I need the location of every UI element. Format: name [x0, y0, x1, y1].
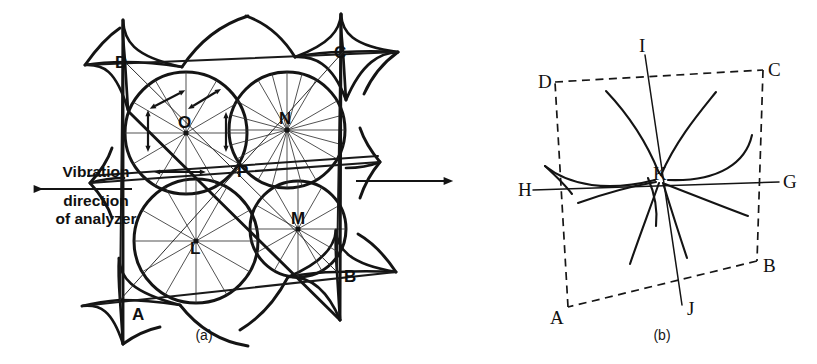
label-D-a: D [115, 53, 127, 72]
label-M: M [291, 209, 305, 228]
label-C-b: C [768, 59, 781, 80]
interference-figure-svg: O N L M P D C A B (a) Vibration directio… [0, 0, 817, 364]
label-H-b: H [518, 179, 532, 200]
caption-b: (b) [653, 327, 670, 343]
label-B-a: B [344, 267, 356, 286]
label-J-b: J [687, 298, 694, 319]
isogyres-b [545, 91, 752, 264]
panel-b-group: D C B A I J H G K (b) [518, 35, 797, 343]
label-B-b: B [763, 255, 776, 276]
label-A-a: A [132, 305, 144, 324]
vibration-label-line1: Vibration [63, 163, 130, 180]
vibration-label-line3: of analyzer [56, 210, 137, 227]
figure-root: O N L M P D C A B (a) Vibration directio… [0, 0, 817, 364]
label-K-b: K [653, 163, 667, 184]
caption-a: (a) [195, 327, 212, 343]
label-N: N [279, 109, 291, 128]
vibration-annotation: Vibration direction of analyzer [34, 163, 136, 227]
label-P: P [237, 162, 248, 181]
label-C-a: C [334, 43, 346, 62]
label-L: L [190, 239, 200, 258]
outer-arcs-a [85, 16, 398, 346]
label-I-b: I [639, 35, 645, 56]
panel-a-group: O N L M P D C A B (a) [82, 14, 398, 346]
label-G-b: G [783, 171, 797, 192]
vibration-label-line2: direction [63, 192, 128, 209]
label-O: O [178, 113, 191, 132]
label-A-b: A [550, 307, 564, 328]
label-D-b: D [538, 71, 552, 92]
